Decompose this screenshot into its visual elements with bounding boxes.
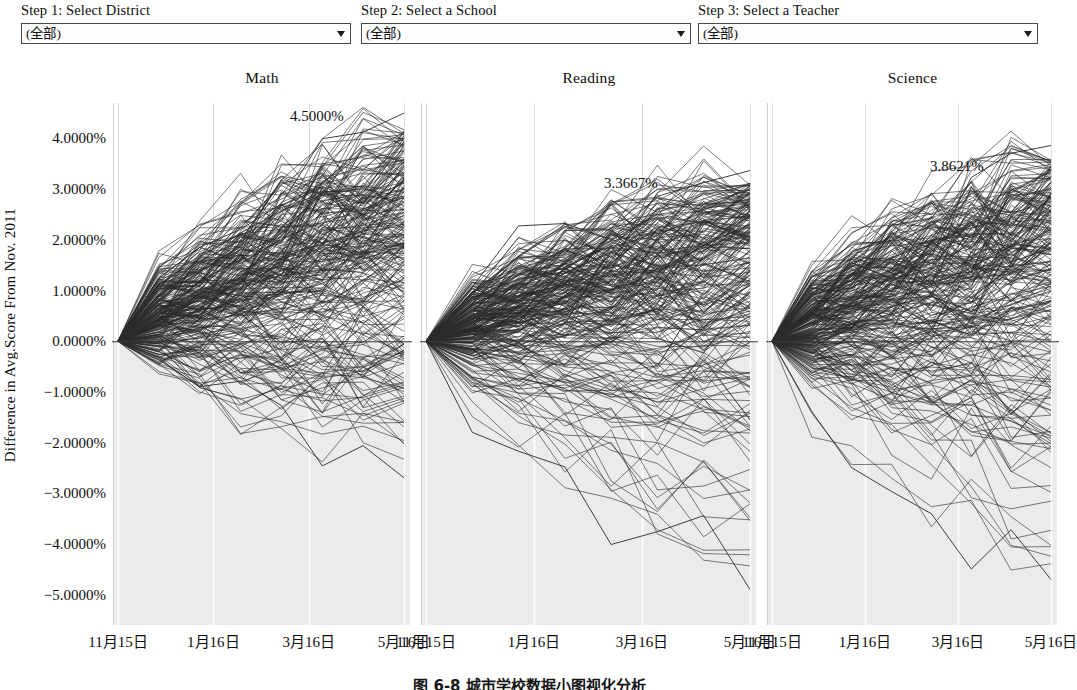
chart-region: Difference in Avg.Score From Nov. 2011 4… [0,58,1059,668]
teacher-dropdown[interactable]: (全部) [698,23,1038,44]
panel-reading-plot[interactable] [420,103,758,625]
slope-lines [766,103,1059,625]
x-tick-label: 11月15日 [742,630,801,651]
filter-teacher-label: Step 3: Select a Teacher [698,2,1038,19]
filter-bar: Step 1: Select District (全部) Step 2: Sel… [0,0,1059,58]
filter-district-group: Step 1: Select District (全部) [21,2,351,44]
y-tick-label: 1.0000% [20,284,106,299]
x-tick-label: 11月15日 [88,630,147,651]
district-dropdown-value: (全部) [22,24,61,43]
panel-science-annotation: 3.8621% [930,158,984,175]
y-tick-label: −5.0000% [20,588,106,603]
y-tick-label: 3.0000% [20,182,106,197]
slope-lines [420,103,758,625]
x-tick-label: 1月16日 [187,630,240,651]
y-tick-label: −4.0000% [20,537,106,552]
slope-lines [112,103,412,625]
filter-school-group: Step 2: Select a School (全部) [361,2,691,44]
school-dropdown-value: (全部) [362,24,401,43]
y-tick-label: 0.0000% [20,334,106,349]
panel-science: Science 3.8621% [766,58,1059,668]
x-tick-label: 1月16日 [508,630,561,651]
panel-math: Math 4.5000% [112,58,412,668]
x-axis-tick-labels: 11月15日1月16日3月16日5月16日11月15日1月16日3月16日5月1… [0,630,1059,656]
panel-reading-annotation: 3.3667% [604,175,658,192]
filter-district-label: Step 1: Select District [21,2,351,19]
y-tick-label: 2.0000% [20,233,106,248]
panel-math-title: Math [112,69,412,87]
panel-reading: Reading 3.3667% [420,58,758,668]
chevron-down-icon[interactable] [337,31,345,37]
x-tick-label: 5月16日 [1025,630,1077,651]
x-tick-label: 3月16日 [932,630,985,651]
x-tick-label: 3月16日 [616,630,669,651]
y-tick-label: −3.0000% [20,486,106,501]
y-tick-label: −1.0000% [20,385,106,400]
panel-math-plot[interactable] [112,103,412,625]
panel-math-annotation: 4.5000% [290,108,344,125]
figure-caption: 图 6-8 城市学校数据小图视化分析 [0,674,1059,690]
school-dropdown[interactable]: (全部) [361,23,691,44]
chevron-down-icon[interactable] [677,31,685,37]
panel-science-title: Science [766,69,1059,87]
x-tick-label: 11月15日 [396,630,455,651]
district-dropdown[interactable]: (全部) [21,23,351,44]
filter-teacher-group: Step 3: Select a Teacher (全部) [698,2,1038,44]
filter-school-label: Step 2: Select a School [361,2,691,19]
chevron-down-icon[interactable] [1024,31,1032,37]
panel-reading-title: Reading [420,69,758,87]
x-tick-label: 3月16日 [282,630,335,651]
y-axis-tick-labels: 4.0000%3.0000%2.0000%1.0000%0.0000%−1.00… [18,58,106,668]
y-tick-label: −2.0000% [20,436,106,451]
teacher-dropdown-value: (全部) [699,24,738,43]
panel-science-plot[interactable] [766,103,1059,625]
x-tick-label: 1月16日 [839,630,892,651]
y-tick-label: 4.0000% [20,131,106,146]
